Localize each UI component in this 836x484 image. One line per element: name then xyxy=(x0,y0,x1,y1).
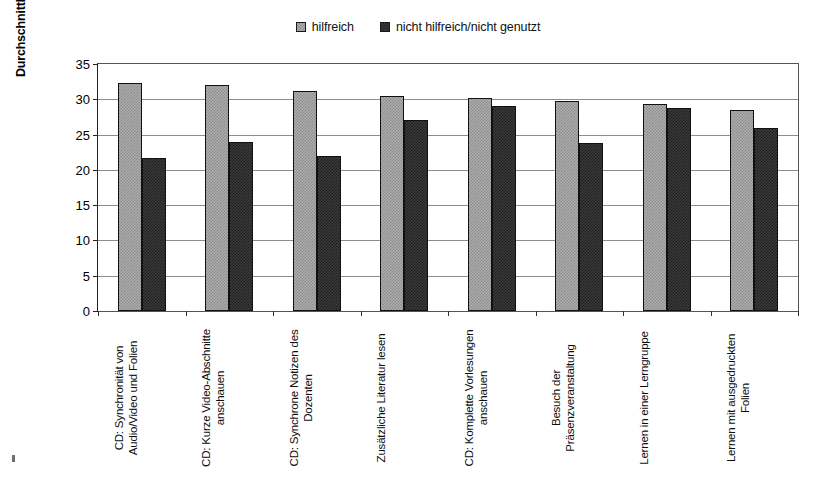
x-axis-label-text: Lernen mit ausgedruckten Folien xyxy=(725,318,752,478)
y-tick-label: 5 xyxy=(83,268,90,283)
x-tick-mark xyxy=(186,311,187,316)
bar-nicht-hilfreich[interactable] xyxy=(667,108,691,311)
bar-hilfreich[interactable] xyxy=(205,85,229,311)
bar-nicht-hilfreich[interactable] xyxy=(754,128,778,311)
bar-nicht-hilfreich[interactable] xyxy=(492,106,516,311)
bar-hilfreich[interactable] xyxy=(468,98,492,311)
bar-nicht-hilfreich[interactable] xyxy=(142,158,166,311)
x-axis-label-text: CD: Kurze Video-Abschnitte anschauen xyxy=(200,318,227,478)
bar-group xyxy=(273,64,361,311)
legend-entry-nicht-hilfreich[interactable]: nicht hilfreich/nicht genutzt xyxy=(380,20,540,34)
y-tick-label: 20 xyxy=(76,162,90,177)
x-axis-label: CD: Kurze Video-Abschnitte anschauen xyxy=(200,318,256,478)
bar-group xyxy=(623,64,711,311)
bars-layer xyxy=(98,64,798,311)
x-axis-label-text: Zusätzliche Literatur lesen xyxy=(375,318,389,478)
bar-group xyxy=(186,64,274,311)
x-axis-label-text: Besuch der Präsenzveranstaltung xyxy=(550,318,577,478)
bar-hilfreich[interactable] xyxy=(293,91,317,311)
x-tick-mark xyxy=(273,311,274,316)
x-axis-label: CD: Synchronität von Audio/Video und Fol… xyxy=(113,318,169,478)
bar-hilfreich[interactable] xyxy=(555,101,579,311)
chart-root: hilfreich nicht hilfreich/nicht genutzt … xyxy=(0,0,836,484)
legend-swatch-icon-nicht-hilfreich xyxy=(380,22,390,32)
y-tick-label: 25 xyxy=(76,127,90,142)
x-axis-label-text: CD: Synchronität von Audio/Video und Fol… xyxy=(113,318,140,478)
bar-nicht-hilfreich[interactable] xyxy=(579,143,603,311)
bar-hilfreich[interactable] xyxy=(730,110,754,311)
legend-label-hilfreich: hilfreich xyxy=(312,20,354,34)
x-axis-label: Zusätzliche Literatur lesen xyxy=(375,318,431,478)
x-axis-label: Lernen in einer Lerngruppe xyxy=(638,318,694,478)
bar-nicht-hilfreich[interactable] xyxy=(317,156,341,311)
bar-nicht-hilfreich[interactable] xyxy=(229,142,253,311)
y-tick-label: 0 xyxy=(83,304,90,319)
x-tick-mark xyxy=(361,311,362,316)
x-tick-mark xyxy=(448,311,449,316)
y-tick-label: 10 xyxy=(76,233,90,248)
bar-group xyxy=(536,64,624,311)
x-axis-label: CD: Komplette Vorlesungen anschauen xyxy=(463,318,519,478)
x-axis-label-text: CD: Synchrone Notizen des Dozenten xyxy=(288,318,315,478)
y-tick-label: 15 xyxy=(76,198,90,213)
y-tick-label: 30 xyxy=(76,92,90,107)
bar-group xyxy=(98,64,186,311)
x-tick-mark xyxy=(536,311,537,316)
x-axis-label-text: Lernen in einer Lerngruppe xyxy=(638,318,652,478)
x-tick-mark xyxy=(98,311,99,316)
legend-swatch-icon-hilfreich xyxy=(296,22,306,32)
x-axis-label: Lernen mit ausgedruckten Folien xyxy=(725,318,781,478)
x-axis-label: CD: Synchrone Notizen des Dozenten xyxy=(288,318,344,478)
y-axis-title-text: Durchschnittliche Punktzahl in der Klaus… xyxy=(14,0,28,77)
bar-group xyxy=(711,64,799,311)
y-tick-label: 35 xyxy=(76,57,90,72)
legend-label-nicht-hilfreich: nicht hilfreich/nicht genutzt xyxy=(396,20,540,34)
chart-legend: hilfreich nicht hilfreich/nicht genutzt xyxy=(0,20,836,34)
bar-group xyxy=(361,64,449,311)
x-tick-mark xyxy=(798,311,799,316)
x-axis-labels: CD: Synchronität von Audio/Video und Fol… xyxy=(97,318,797,478)
legend-entry-hilfreich[interactable]: hilfreich xyxy=(296,20,354,34)
x-axis-label-text: CD: Komplette Vorlesungen anschauen xyxy=(463,318,490,478)
plot-area: 05101520253035 xyxy=(97,63,799,312)
bar-hilfreich[interactable] xyxy=(118,83,142,311)
y-axis-title: Durchschnittliche Punktzahl in der Klaus… xyxy=(14,0,36,77)
x-tick-mark xyxy=(711,311,712,316)
x-axis-label: Besuch der Präsenzveranstaltung xyxy=(550,318,606,478)
bar-group xyxy=(448,64,536,311)
bar-nicht-hilfreich[interactable] xyxy=(404,120,428,311)
page-artifact-mark xyxy=(12,455,15,462)
x-tick-mark xyxy=(623,311,624,316)
bar-hilfreich[interactable] xyxy=(643,104,667,311)
bar-hilfreich[interactable] xyxy=(380,96,404,311)
